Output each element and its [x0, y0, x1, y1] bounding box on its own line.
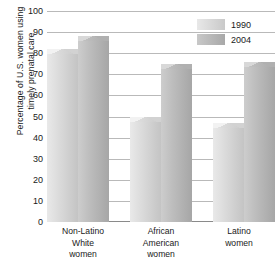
- bar-body: [47, 54, 78, 222]
- bar-body: [244, 67, 275, 222]
- y-tick-label: 90: [33, 27, 43, 37]
- bar-body: [161, 69, 192, 222]
- y-tick-label: 40: [33, 133, 43, 143]
- y-tick-label: 80: [33, 48, 43, 58]
- legend-item-2004[interactable]: 2004: [197, 34, 251, 45]
- legend-swatch-2004: [197, 34, 225, 45]
- y-tick-label: 100: [28, 6, 43, 16]
- bar-1990[interactable]: [130, 117, 161, 223]
- y-tick-label: 0: [38, 217, 43, 227]
- legend: 1990 2004: [197, 19, 251, 45]
- y-tick-label: 60: [33, 90, 43, 100]
- legend-item-1990[interactable]: 1990: [197, 19, 251, 30]
- bar-body: [213, 128, 244, 222]
- bar-group: [130, 11, 192, 222]
- bar-1990[interactable]: [47, 49, 78, 222]
- x-label-african-american: African American women: [125, 226, 197, 261]
- bar-2004[interactable]: [161, 64, 192, 222]
- legend-label-1990: 1990: [231, 20, 251, 30]
- y-tick-label: 30: [33, 154, 43, 164]
- y-tick-label: 50: [33, 112, 43, 122]
- bar-group: [47, 11, 109, 222]
- bar-body: [130, 122, 161, 223]
- x-label-non-latino-white: Non-Latino White women: [47, 226, 119, 261]
- bar-body: [78, 41, 109, 222]
- bar-1990[interactable]: [213, 123, 244, 222]
- y-tick-label: 70: [33, 69, 43, 79]
- legend-swatch-1990: [197, 19, 225, 30]
- bar-chart: Percentage of U.S. women using timely pr…: [0, 0, 280, 275]
- y-tick-label: 10: [33, 196, 43, 206]
- x-label-latino: Latino women: [203, 226, 275, 261]
- y-tick-label: 20: [33, 175, 43, 185]
- bar-2004[interactable]: [78, 36, 109, 222]
- legend-label-2004: 2004: [231, 35, 251, 45]
- bar-2004[interactable]: [244, 62, 275, 222]
- x-axis-labels: Non-Latino White women African American …: [47, 226, 275, 261]
